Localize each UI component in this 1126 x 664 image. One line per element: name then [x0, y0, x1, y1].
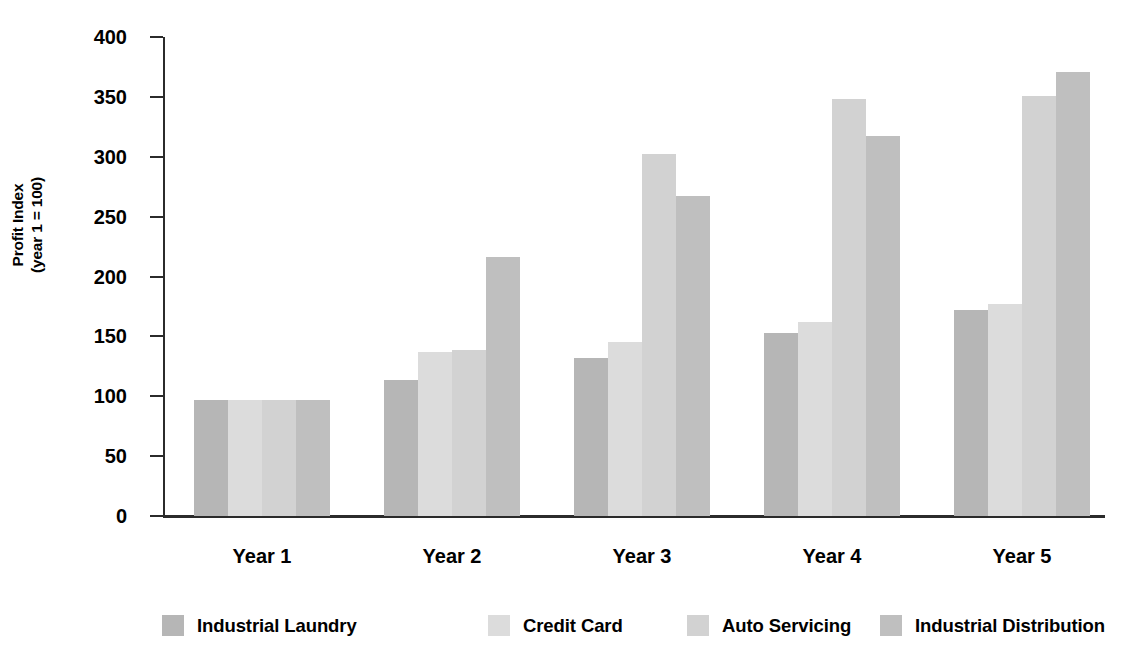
- y-axis-tick-label: 350: [0, 87, 145, 107]
- y-axis-tick: [150, 156, 163, 158]
- legend-label: Industrial Distribution: [915, 615, 1105, 636]
- x-axis-label-year-5: Year 5: [932, 545, 1112, 567]
- chart-legend: Industrial LaundryCredit CardAuto Servic…: [0, 610, 1126, 644]
- x-axis-label-year-3: Year 3: [552, 545, 732, 567]
- bar: [1022, 96, 1056, 516]
- y-axis-tick-label: 200: [0, 267, 145, 287]
- legend-swatch-icon: [687, 615, 709, 636]
- y-axis-tick-label: 300: [0, 147, 145, 167]
- y-axis-tick: [150, 216, 163, 218]
- bar: [296, 400, 330, 516]
- bar: [764, 333, 798, 516]
- y-axis-line: [163, 37, 165, 516]
- bar: [608, 342, 642, 516]
- bar: [954, 310, 988, 516]
- bar: [676, 196, 710, 516]
- y-axis-tick-label: 100: [0, 386, 145, 406]
- bar: [642, 154, 676, 516]
- y-axis-tick: [150, 395, 163, 397]
- y-axis-tick: [150, 96, 163, 98]
- bar: [228, 400, 262, 516]
- y-axis-tick: [150, 455, 163, 457]
- bar: [418, 352, 452, 516]
- bar: [1056, 72, 1090, 516]
- y-axis-tick: [150, 36, 163, 38]
- y-axis-tick: [150, 515, 163, 517]
- legend-label: Auto Servicing: [722, 615, 851, 636]
- bar: [866, 136, 900, 516]
- x-axis-label-year-1: Year 1: [172, 545, 352, 567]
- y-axis-tick-label: 150: [0, 326, 145, 346]
- y-axis-tick-label: 400: [0, 27, 145, 47]
- y-axis-tick-label: 250: [0, 207, 145, 227]
- legend-item[interactable]: Auto Servicing: [687, 610, 851, 640]
- bar: [574, 358, 608, 516]
- bar: [832, 99, 866, 516]
- bar: [384, 380, 418, 517]
- bar: [194, 400, 228, 516]
- bar: [798, 322, 832, 516]
- legend-swatch-icon: [488, 615, 510, 636]
- bar: [452, 350, 486, 516]
- legend-label: Industrial Laundry: [197, 615, 357, 636]
- y-axis-tick-labels: 050100150200250300350400: [0, 37, 145, 516]
- legend-label: Credit Card: [523, 615, 623, 636]
- bar: [988, 304, 1022, 516]
- legend-swatch-icon: [162, 615, 184, 636]
- plot-area: [163, 37, 1105, 516]
- y-axis-tick-label: 0: [0, 506, 145, 526]
- x-axis-label-year-2: Year 2: [362, 545, 542, 567]
- legend-item[interactable]: Industrial Distribution: [880, 610, 1105, 640]
- legend-swatch-icon: [880, 615, 902, 636]
- y-axis-tick: [150, 276, 163, 278]
- legend-item[interactable]: Industrial Laundry: [162, 610, 357, 640]
- legend-item[interactable]: Credit Card: [488, 610, 623, 640]
- bar: [262, 400, 296, 516]
- y-axis-tick: [150, 335, 163, 337]
- x-axis-label-year-4: Year 4: [742, 545, 922, 567]
- y-axis-tick-label: 50: [0, 446, 145, 466]
- profit-index-bar-chart: Profit Index (year 1 = 100) 050100150200…: [0, 0, 1126, 664]
- bar: [486, 257, 520, 516]
